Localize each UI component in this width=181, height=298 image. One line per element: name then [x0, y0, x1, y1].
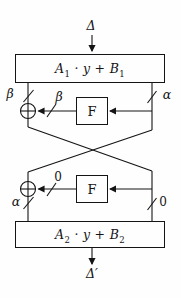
affine-box-1: A1 · y + B1	[15, 54, 165, 83]
stage1-right-alpha-label: α	[163, 89, 171, 102]
wires-layer	[0, 0, 181, 298]
stage1-left-beta-label: β	[6, 88, 13, 101]
f-function-box-2-label: F	[87, 182, 96, 197]
stage1-f-wire-beta-label: β	[55, 91, 62, 104]
output-delta-prime-label: Δ′	[86, 268, 98, 281]
diagram-canvas: A1 · y + B1 A2 · y + B2 F F Δ β β α 0 α …	[0, 0, 181, 298]
stage2-right-zero-label: 0	[159, 196, 167, 208]
f-function-box-2: F	[76, 175, 108, 203]
crossover-left-to-right	[28, 127, 152, 171]
input-delta-label: Δ	[86, 20, 95, 33]
f-function-box-1: F	[76, 97, 108, 125]
affine-box-2-label: A2 · y + B2	[55, 227, 125, 242]
stage2-left-alpha-label: α	[12, 196, 20, 209]
f-function-box-1-label: F	[87, 104, 96, 119]
crossover-right-to-left	[28, 130, 152, 172]
affine-box-2: A2 · y + B2	[15, 221, 165, 248]
stage2-f-wire-zero-label: 0	[54, 171, 62, 183]
affine-box-1-label: A1 · y + B1	[55, 61, 125, 76]
